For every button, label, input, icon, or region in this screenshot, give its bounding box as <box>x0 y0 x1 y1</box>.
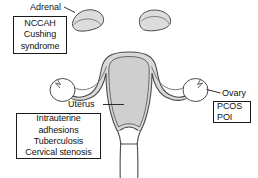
uterus-causes-box: Intrauterine adhesions Tuberculosis Cerv… <box>16 113 101 159</box>
vagina-right-wall <box>137 143 138 178</box>
uterus-cause-3: Tuberculosis <box>17 136 100 147</box>
uterus-label: Uterus <box>68 99 95 109</box>
adrenal-cause-1: NCCAH <box>14 18 66 29</box>
left-adrenal-gland <box>72 10 103 31</box>
adrenal-label: Adrenal <box>30 2 61 12</box>
uterus-cause-2: adhesions <box>17 125 100 136</box>
ovary-leader-line <box>207 90 221 94</box>
ovary-causes-box: PCOS POI <box>213 101 251 123</box>
ovary-label: Ovary <box>222 88 246 98</box>
adrenal-cause-3: syndrome <box>14 41 66 52</box>
uterine-cavity <box>109 57 149 128</box>
adrenal-causes-box: NCCAH Cushing syndrome <box>13 16 67 54</box>
right-adrenal-gland <box>139 10 170 31</box>
uterus-cause-1: Intrauterine <box>17 113 100 124</box>
amenorrhoea-anatomy-diagram: Adrenal Uterus Ovary NCCAH Cushing syndr… <box>0 0 258 178</box>
cervix <box>118 131 141 145</box>
ovary-cause-2: POI <box>214 112 250 123</box>
vagina-left-wall <box>120 143 121 178</box>
adrenal-leader-line <box>64 7 75 13</box>
adrenal-cause-2: Cushing <box>14 29 66 40</box>
ovary-cause-1: PCOS <box>214 101 250 112</box>
right-ovary <box>183 79 208 102</box>
uterus-cause-4: Cervical stenosis <box>17 147 100 158</box>
